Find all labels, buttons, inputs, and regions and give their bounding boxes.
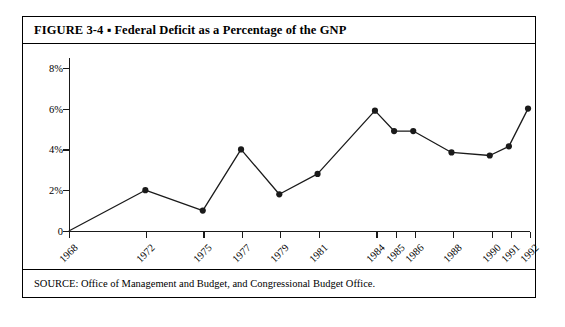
data-point	[238, 146, 244, 152]
data-point	[372, 108, 378, 114]
data-point	[276, 191, 282, 197]
data-point	[314, 171, 320, 177]
data-point	[200, 208, 206, 214]
data-point	[410, 128, 416, 134]
source-caption: SOURCE: Office of Management and Budget,…	[34, 278, 375, 289]
data-point	[448, 149, 454, 155]
series-polyline	[69, 109, 528, 231]
series-markers	[142, 106, 531, 214]
data-point	[506, 143, 512, 149]
data-point	[487, 152, 493, 158]
data-point	[142, 187, 148, 193]
figure-title-bar: FIGURE 3-4 ▪ Federal Deficit as a Percen…	[23, 17, 535, 44]
data-point	[525, 106, 531, 112]
page-title: FIGURE 3-4 ▪ Federal Deficit as a Percen…	[34, 23, 346, 38]
chart-plot-area: 02%4%6%8% 196819721975197719791981198419…	[23, 44, 535, 269]
figure-container: FIGURE 3-4 ▪ Federal Deficit as a Percen…	[22, 16, 536, 298]
data-point	[391, 128, 397, 134]
deficit-line-series	[23, 44, 535, 269]
figure-source-bar: SOURCE: Office of Management and Budget,…	[23, 269, 535, 296]
